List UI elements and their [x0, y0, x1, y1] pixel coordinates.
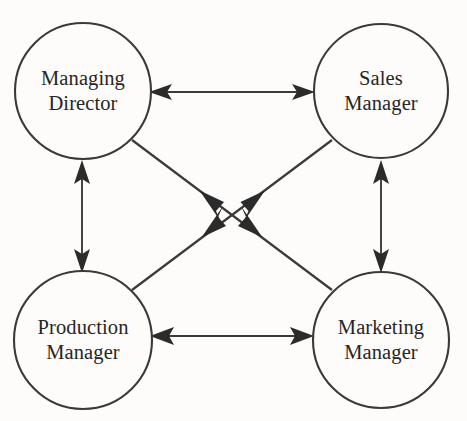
node-circle-production-manager[interactable]: [14, 271, 152, 409]
node-managing-director[interactable]: Managing Director: [15, 23, 151, 159]
edge-production-manager-marketing-manager: [150, 327, 314, 345]
node-label-sales-manager-line2: Manager: [344, 92, 418, 115]
node-label-marketing-manager-line1: Marketing: [338, 316, 424, 339]
node-production-manager[interactable]: Production Manager: [14, 271, 152, 409]
node-label-production-manager-line1: Production: [38, 316, 129, 338]
edge-managing-director-sales-manager: [149, 84, 315, 100]
node-circle-managing-director[interactable]: [15, 23, 151, 159]
node-label-marketing-manager-line2: Manager: [344, 341, 418, 364]
diagram-canvas: Managing Director Sales Manager Producti…: [0, 0, 467, 421]
org-communication-diagram: Managing Director Sales Manager Producti…: [0, 0, 467, 421]
edge-sales-manager-marketing-manager: [373, 160, 389, 273]
node-circle-marketing-manager[interactable]: [313, 272, 449, 408]
node-label-managing-director-line1: Managing: [41, 67, 125, 90]
node-marketing-manager[interactable]: Marketing Manager: [313, 272, 449, 408]
node-circle-sales-manager[interactable]: [314, 24, 448, 158]
node-label-managing-director-line2: Director: [48, 92, 117, 114]
node-sales-manager[interactable]: Sales Manager: [314, 24, 448, 158]
edge-managing-director-production-manager: [74, 160, 90, 273]
node-label-production-manager-line2: Manager: [46, 341, 120, 364]
node-label-sales-manager-line1: Sales: [359, 67, 403, 89]
